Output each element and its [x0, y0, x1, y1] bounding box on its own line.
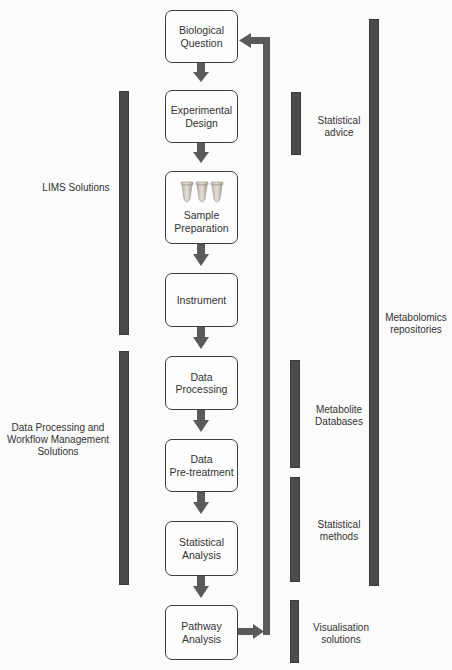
sample-tubes-icon — [180, 181, 224, 205]
data-processing-bar — [119, 351, 129, 585]
arrow-down-icon — [193, 142, 209, 163]
visualisation-bar — [290, 600, 299, 663]
step-statistical-analysis: Statistical Analysis — [165, 521, 238, 576]
step-data-pretreatment: Data Pre-treatment — [165, 439, 238, 492]
step-label: Data Pre-treatment — [169, 453, 233, 478]
repositories-label: Metabolomics repositories — [380, 312, 452, 336]
step-label: Pathway Analysis — [181, 620, 221, 645]
step-label: Data Processing — [176, 371, 228, 396]
statistical-methods-bar — [290, 477, 300, 582]
step-instrument: Instrument — [165, 273, 238, 327]
statistical-advice-label: Statistical advice — [303, 115, 375, 139]
arrow-down-icon — [193, 244, 209, 266]
visualisation-label: Visualisation solutions — [303, 622, 379, 646]
arrow-down-icon — [193, 410, 209, 432]
lims-bar — [119, 91, 129, 335]
data-processing-label: Data Processing and Workflow Management … — [0, 422, 116, 458]
statistical-advice-bar — [291, 92, 301, 155]
step-biological-question: Biological Question — [165, 10, 238, 63]
arrow-down-icon — [193, 492, 209, 514]
arrow-down-icon — [193, 63, 209, 82]
step-label: Experimental Design — [171, 104, 232, 129]
statistical-methods-label: Statistical methods — [303, 519, 375, 543]
arrow-down-icon — [193, 576, 209, 598]
repositories-bar — [369, 19, 379, 586]
arrow-down-icon — [193, 327, 209, 349]
step-data-processing: Data Processing — [165, 356, 238, 410]
step-label: Sample Preparation — [174, 209, 228, 234]
metabolite-databases-bar — [290, 360, 300, 468]
step-experimental-design: Experimental Design — [165, 90, 238, 143]
feedback-arrow-icon — [238, 33, 270, 639]
step-label: Biological Question — [179, 24, 224, 49]
step-label: Instrument — [177, 294, 227, 307]
step-sample-preparation: Sample Preparation — [165, 171, 238, 244]
metabolite-databases-label: Metabolite Databases — [303, 404, 375, 428]
lims-label: LIMS Solutions — [36, 182, 116, 194]
step-pathway-analysis: Pathway Analysis — [165, 605, 238, 660]
step-label: Statistical Analysis — [179, 536, 224, 561]
